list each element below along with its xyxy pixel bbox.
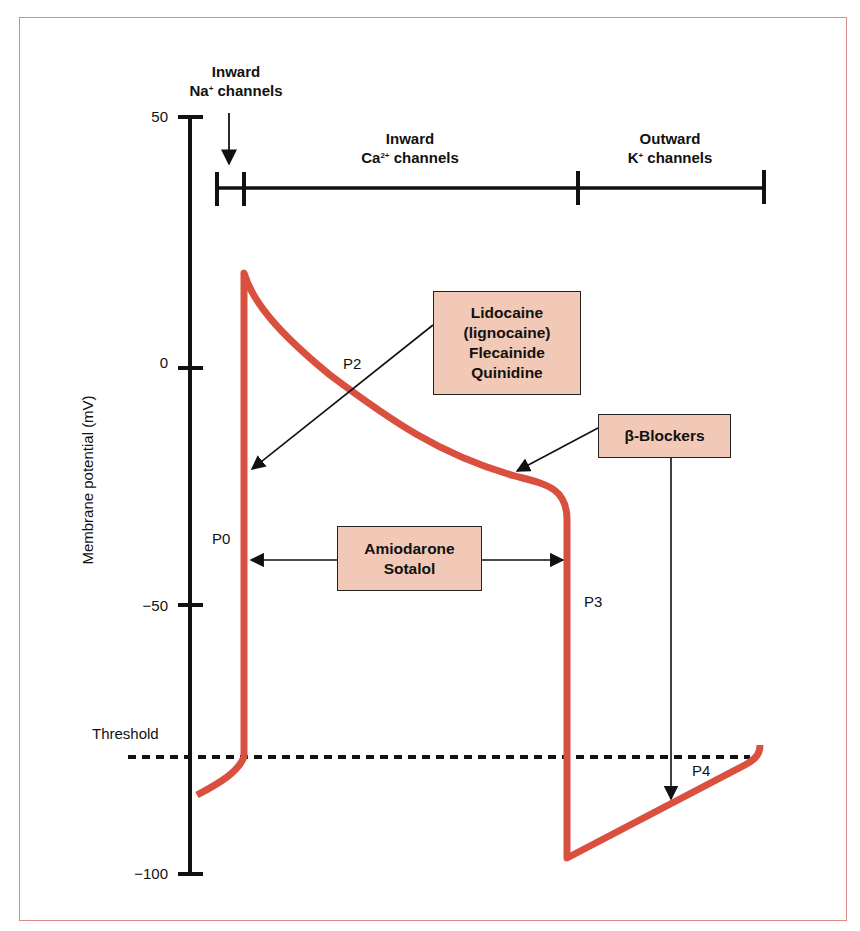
k-channel-label: Outward K+ channels bbox=[600, 129, 740, 167]
class1-drug-arrow bbox=[252, 325, 433, 469]
beta-blocker-box: β-Blockers bbox=[598, 414, 731, 458]
phase-0-label: P0 bbox=[212, 530, 230, 547]
beta-blocker-arrow-p2 bbox=[517, 428, 598, 471]
na-channel-label: Inward Na+ channels bbox=[177, 62, 295, 100]
ca-channel-label: Inward Ca2+ channels bbox=[340, 129, 480, 167]
threshold-label: Threshold bbox=[92, 725, 159, 742]
y-tick-minus-100: −100 bbox=[118, 865, 168, 882]
class1-drug-box: Lidocaine (lignocaine) Flecainide Quinid… bbox=[433, 291, 581, 395]
y-tick-minus-50: −50 bbox=[118, 597, 168, 614]
y-axis-label: Membrane potential (mV) bbox=[79, 395, 96, 564]
channel-timeline-bar bbox=[217, 170, 764, 206]
y-tick-0: 0 bbox=[118, 354, 168, 371]
y-axis bbox=[178, 117, 203, 874]
class3-drug-box: Amiodarone Sotalol bbox=[337, 526, 482, 591]
phase-3-label: P3 bbox=[584, 593, 602, 610]
y-tick-50: 50 bbox=[118, 108, 168, 125]
phase-2-label: P2 bbox=[343, 355, 361, 372]
phase-4-label: P4 bbox=[692, 762, 710, 779]
